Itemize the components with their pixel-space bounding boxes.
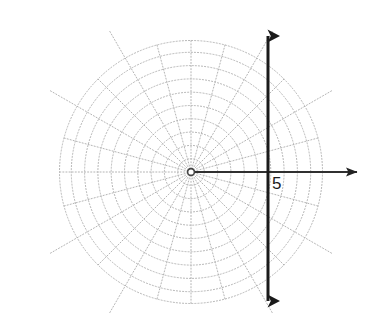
grid-spoke-75 [191,45,225,172]
grid-spoke-150 [50,90,192,172]
grid-spoke-195 [64,172,191,206]
pole-origin-marker [188,169,195,176]
grid-spoke-300 [191,172,273,314]
grid-spoke-330 [191,172,333,254]
polar-plot-figure: 5 [0,0,381,333]
grid-spoke-105 [157,45,191,172]
grid-spoke-30 [191,90,333,172]
grid-spoke-165 [64,138,191,172]
grid-spoke-315 [191,172,284,265]
x-intercept-label: 5 [272,175,281,192]
grid-spoke-120 [109,31,191,173]
grid-spoke-255 [157,172,191,299]
polar-plot-canvas [0,0,381,333]
grid-spoke-60 [191,31,273,173]
grid-spoke-285 [191,172,225,299]
grid-spoke-15 [191,138,318,172]
grid-spoke-240 [109,172,191,314]
grid-spoke-210 [50,172,192,254]
grid-spoke-345 [191,172,318,206]
